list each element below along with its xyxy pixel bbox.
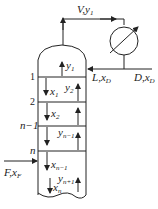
stream-x1: x1	[49, 85, 58, 99]
stream-yn+1: yn+1	[57, 172, 75, 186]
stream-yn-1: yn−1	[57, 126, 75, 140]
column-bottom	[38, 193, 86, 198]
stream-x2: x2	[50, 107, 60, 121]
stream-y2: y2	[64, 81, 74, 95]
distillate-label: D,xD	[133, 71, 155, 85]
stream-xn-1: xn−1	[50, 158, 68, 172]
reflux-label: L,xD	[91, 71, 111, 85]
stream-y1: y1	[65, 59, 74, 73]
plate-label-n-1: n−1	[20, 119, 38, 131]
distillation-diagram: V,y1 L,xD D,xD F,xF 1 2 n−1 n y1 x1 y2 x…	[0, 0, 158, 209]
plate-label-n: n	[30, 144, 36, 156]
feed-label: F,xF	[3, 166, 22, 180]
top-vapor-label: V,y1	[77, 3, 93, 17]
plate-label-2: 2	[30, 96, 35, 107]
plate-label-1: 1	[30, 71, 35, 82]
vapor-line	[63, 19, 124, 45]
